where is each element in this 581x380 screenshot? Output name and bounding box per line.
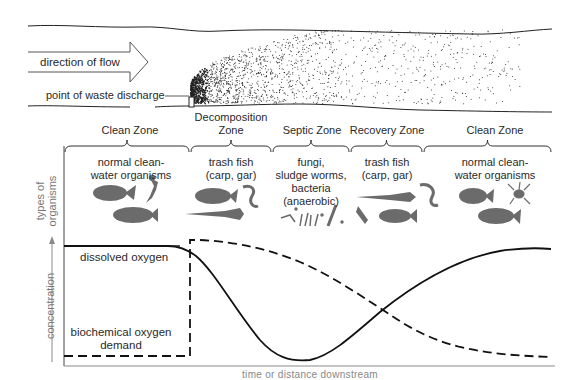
- organisms-clean-2: normal clean- water organisms: [440, 156, 550, 182]
- discharge-pipe-icon: [189, 97, 194, 107]
- x-axis-label: time or distance downstream: [220, 369, 400, 380]
- zone-label-decomposition-line2: Zone: [186, 124, 276, 137]
- zone-label-recovery: Recovery Zone: [345, 124, 429, 137]
- flow-direction-label: direction of flow: [40, 56, 120, 68]
- gar-icon: [185, 208, 244, 220]
- zone-label-clean-1: Clean Zone: [85, 124, 175, 137]
- types-of-organisms-axis-label: types of organisms: [34, 161, 58, 241]
- waste-plume: [190, 30, 520, 105]
- dissolved-oxygen-label: dissolved oxygen: [80, 251, 168, 263]
- organisms-septic-line4: (anaerobic): [270, 195, 352, 208]
- zone-label-decomposition-line1: Decomposition: [186, 111, 276, 124]
- organisms-septic: fungi, sludge worms, bacteria (anaerobic…: [270, 156, 352, 208]
- crayfish-icon: [508, 182, 530, 204]
- gar-icon: [356, 192, 416, 202]
- organisms-septic-line3: bacteria: [270, 182, 352, 195]
- zone-label-decomposition: Decomposition Zone: [186, 111, 276, 137]
- carp-icon: [195, 188, 238, 204]
- sludge-worm-icon: [420, 185, 438, 206]
- zone-label-septic: Septic Zone: [270, 124, 354, 137]
- organisms-decomposition-line1: trash fish: [191, 156, 271, 169]
- sludge-organisms-icon: [281, 205, 343, 226]
- zone-braces: [65, 140, 551, 152]
- river-top-bank: [28, 25, 552, 34]
- fish-icon: [356, 206, 368, 224]
- fish-icon: [93, 185, 136, 201]
- fish-icon: [478, 208, 521, 224]
- river-bottom-bank: [28, 104, 552, 112]
- organisms-recovery-line1: trash fish: [350, 156, 424, 169]
- organisms-clean-2-line2: water organisms: [440, 169, 550, 182]
- organisms-clean-1-line2: water organisms: [76, 169, 186, 182]
- axis-label-line1: types of: [34, 161, 46, 241]
- bod-label-line1: biochemical oxygen: [66, 326, 176, 339]
- bod-label: biochemical oxygen demand: [66, 326, 176, 352]
- organisms-recovery-line2: (carp, gar): [350, 169, 424, 182]
- carp-icon: [379, 209, 417, 223]
- axis-label-line2: organisms: [46, 161, 58, 241]
- discharge-point-label: point of waste discharge: [46, 89, 165, 101]
- organisms-decomposition: trash fish (carp, gar): [191, 156, 271, 182]
- organisms-recovery: trash fish (carp, gar): [350, 156, 424, 182]
- bod-label-line2: demand: [66, 339, 176, 352]
- fish-icon: [113, 207, 158, 223]
- organisms-septic-line1: fungi,: [270, 156, 352, 169]
- organisms-decomposition-line2: (carp, gar): [191, 169, 271, 182]
- concentration-axis-label: concentration: [44, 266, 56, 346]
- organisms-clean-2-line1: normal clean-: [440, 156, 550, 169]
- organisms-clean-1-line1: normal clean-: [76, 156, 186, 169]
- fish-icon: [459, 188, 494, 204]
- sludge-worm-icon: [243, 186, 258, 206]
- organisms-septic-line2: sludge worms,: [270, 169, 352, 182]
- organisms-clean-1: normal clean- water organisms: [76, 156, 186, 182]
- zone-label-clean-2: Clean Zone: [450, 124, 540, 137]
